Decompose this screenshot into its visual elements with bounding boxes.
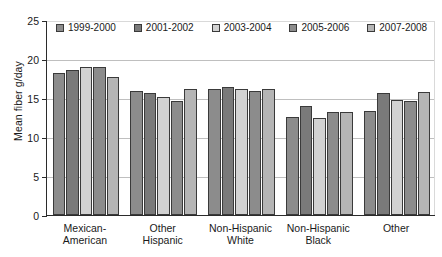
category-label-line: American <box>46 234 124 246</box>
bar[interactable] <box>327 112 340 215</box>
x-axis-category-label: OtherHispanic <box>124 222 202 246</box>
legend-swatch-icon <box>367 24 375 32</box>
legend-item[interactable]: 1999-2000 <box>56 22 116 33</box>
bar[interactable] <box>144 93 157 215</box>
bar[interactable] <box>391 100 404 215</box>
bar[interactable] <box>262 89 275 215</box>
bar[interactable] <box>340 112 353 215</box>
bar-chart-figure: Mean fiber g/day 0510152025 Mexican-Amer… <box>0 0 442 257</box>
category-label-line: White <box>202 234 280 246</box>
bar[interactable] <box>377 93 390 215</box>
y-axis-tick-label: 0 <box>33 210 39 222</box>
bar[interactable] <box>53 73 66 215</box>
legend-swatch-icon <box>56 24 64 32</box>
bar[interactable] <box>313 118 326 215</box>
legend-label: 1999-2000 <box>68 22 116 33</box>
x-axis-category-label: Non-HispanicBlack <box>279 222 357 246</box>
bar[interactable] <box>184 89 197 215</box>
legend-label: 2001-2002 <box>146 22 194 33</box>
legend-item[interactable]: 2003-2004 <box>212 22 272 33</box>
bar[interactable] <box>157 97 170 215</box>
y-axis-tick-label: 25 <box>27 15 39 27</box>
y-axis-tick-label: 10 <box>27 132 39 144</box>
y-axis-title: Mean fiber g/day <box>12 21 24 181</box>
legend-label: 2003-2004 <box>224 22 272 33</box>
bar[interactable] <box>66 70 79 215</box>
bar-group <box>358 21 436 215</box>
bar[interactable] <box>107 77 120 215</box>
legend-swatch-icon <box>289 24 297 32</box>
bar-group <box>125 21 203 215</box>
category-label-line: Mexican- <box>46 222 124 234</box>
bar[interactable] <box>364 111 377 215</box>
bar[interactable] <box>80 67 93 215</box>
y-axis-tick-label: 5 <box>33 171 39 183</box>
legend-swatch-icon <box>134 24 142 32</box>
bar-group <box>280 21 358 215</box>
legend-label: 2005-2006 <box>301 22 349 33</box>
legend-swatch-icon <box>212 24 220 32</box>
legend-item[interactable]: 2005-2006 <box>289 22 349 33</box>
y-axis-tick-label: 15 <box>27 93 39 105</box>
bar[interactable] <box>222 87 235 215</box>
y-axis-tick-label: 20 <box>27 54 39 66</box>
x-axis-category-label: Mexican-American <box>46 222 124 246</box>
legend-item[interactable]: 2001-2002 <box>134 22 194 33</box>
bar[interactable] <box>93 67 106 215</box>
bar-group <box>203 21 281 215</box>
x-axis-category-label: Non-HispanicWhite <box>202 222 280 246</box>
category-label-line: Non-Hispanic <box>279 222 357 234</box>
bar[interactable] <box>235 89 248 215</box>
bar[interactable] <box>130 91 143 215</box>
category-label-line: Black <box>279 234 357 246</box>
chart-legend: 1999-20002001-20022003-20042005-20062007… <box>56 22 427 33</box>
bar[interactable] <box>171 101 184 215</box>
bar[interactable] <box>300 106 313 215</box>
bar[interactable] <box>286 117 299 215</box>
bar[interactable] <box>208 89 221 215</box>
bar-group <box>47 21 125 215</box>
x-axis-category-label: Other <box>357 222 435 234</box>
bar[interactable] <box>404 101 417 215</box>
legend-item[interactable]: 2007-2008 <box>367 22 427 33</box>
plot-area: 0510152025 <box>46 21 435 216</box>
legend-label: 2007-2008 <box>379 22 427 33</box>
bar[interactable] <box>418 92 431 215</box>
category-label-line: Non-Hispanic <box>202 222 280 234</box>
category-label-line: Hispanic <box>124 234 202 246</box>
y-axis-tick <box>42 216 47 217</box>
category-label-line: Other <box>357 222 435 234</box>
bar[interactable] <box>249 91 262 215</box>
category-label-line: Other <box>124 222 202 234</box>
